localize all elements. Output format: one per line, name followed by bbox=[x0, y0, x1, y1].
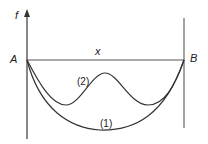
point-label-a: A bbox=[9, 53, 17, 65]
curve-2 bbox=[27, 60, 184, 105]
curve-label-2: (2) bbox=[77, 76, 89, 87]
point-label-b: B bbox=[190, 52, 197, 64]
axis-label-f: f bbox=[15, 9, 19, 21]
axis-arrow-icon bbox=[24, 9, 30, 17]
diagram-canvas: f x A B (2) (1) bbox=[0, 0, 208, 144]
horizontal-label-x: x bbox=[94, 45, 101, 57]
curve-label-1: (1) bbox=[100, 118, 112, 129]
